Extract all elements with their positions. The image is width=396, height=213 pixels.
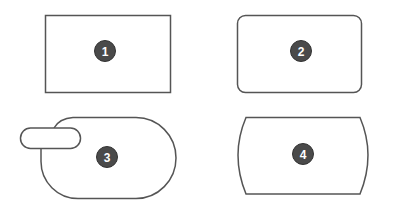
shape-3-stadium-with-tab: 3 bbox=[21, 118, 177, 199]
badge-label-2: 2 bbox=[298, 45, 305, 59]
badge-label-1: 1 bbox=[102, 45, 109, 59]
number-badge-1: 1 bbox=[95, 41, 116, 62]
shape-1-rectangle: 1 bbox=[46, 16, 171, 93]
shape-3-tab bbox=[21, 128, 81, 149]
shape-4-convex-sides: 4 bbox=[238, 118, 368, 195]
number-badge-4: 4 bbox=[293, 144, 314, 165]
shapes-diagram: 1 2 3 4 bbox=[0, 0, 396, 213]
shape-2-rounded-rectangle: 2 bbox=[238, 16, 362, 93]
number-badge-3: 3 bbox=[97, 147, 118, 168]
badge-label-4: 4 bbox=[300, 148, 307, 162]
number-badge-2: 2 bbox=[291, 41, 312, 62]
badge-label-3: 3 bbox=[104, 151, 111, 165]
